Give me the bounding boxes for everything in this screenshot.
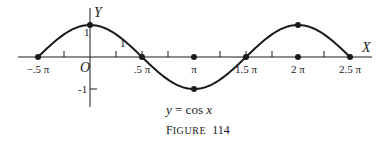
caption-figure: FIGURE114 bbox=[166, 123, 230, 137]
caption-eq-mid: = cos bbox=[172, 102, 206, 117]
data-point bbox=[295, 54, 301, 60]
origin-label: O bbox=[80, 60, 90, 75]
data-point bbox=[295, 22, 301, 28]
x-tick-labels: −.5 π.5 ππ1.5 π2 π2.5 π bbox=[27, 63, 362, 75]
x-tick-label: π bbox=[191, 63, 197, 75]
y-label-one: 1 bbox=[84, 26, 90, 38]
x-tick-label: 1.5 π bbox=[235, 63, 258, 75]
data-point bbox=[191, 54, 197, 60]
x-tick-label: 2 π bbox=[291, 63, 305, 75]
x-tick-label: −.5 π bbox=[27, 63, 50, 75]
cosine-figure: Y X 1 -1 1 O −.5 π.5 ππ1.5 π2 π2.5 π y =… bbox=[0, 0, 382, 142]
caption-fig-number: 114 bbox=[212, 123, 230, 137]
data-point bbox=[191, 86, 197, 92]
x-tick-label: 2.5 π bbox=[339, 63, 362, 75]
curve-marker-one: 1 bbox=[120, 37, 126, 49]
data-point bbox=[243, 54, 249, 60]
caption-equation: y = cos x bbox=[164, 102, 212, 117]
data-point bbox=[35, 54, 41, 60]
x-tick-label: .5 π bbox=[134, 63, 151, 75]
data-point bbox=[347, 54, 353, 60]
caption-eq-x: x bbox=[205, 102, 212, 117]
data-point bbox=[139, 54, 145, 60]
y-label-minus-one: -1 bbox=[78, 83, 87, 95]
caption-fig-rest: IGURE bbox=[173, 125, 207, 136]
x-axis-label: X bbox=[361, 40, 371, 55]
y-axis-label: Y bbox=[94, 5, 104, 20]
